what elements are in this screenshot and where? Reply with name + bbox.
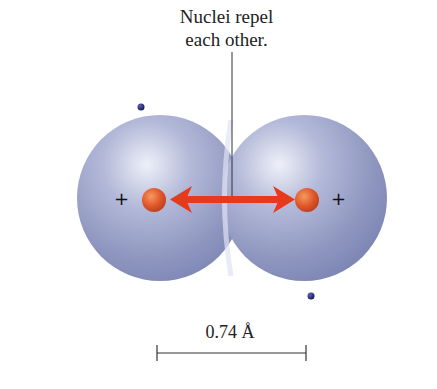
left-positive-charge-icon: + — [114, 190, 129, 208]
right-electron — [308, 293, 315, 300]
left-nucleus — [142, 188, 166, 212]
right-nucleus — [295, 188, 319, 212]
scale-bar — [157, 345, 306, 361]
right-positive-charge-icon: + — [331, 190, 346, 208]
bond-length-label: 0.74 Å — [150, 322, 310, 343]
left-electron — [138, 104, 145, 111]
